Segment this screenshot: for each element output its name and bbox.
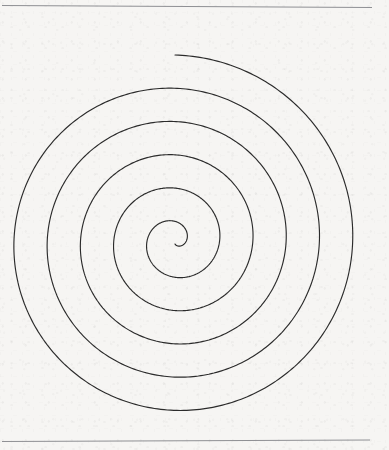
bottom-horizontal-rule bbox=[2, 440, 370, 442]
archimedean-spiral-path bbox=[14, 55, 353, 410]
spiral-drawing-canvas bbox=[0, 0, 389, 450]
top-horizontal-rule bbox=[2, 6, 372, 8]
spiral-figure bbox=[0, 0, 389, 450]
